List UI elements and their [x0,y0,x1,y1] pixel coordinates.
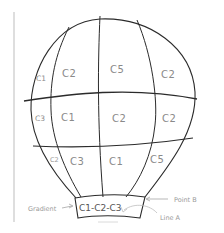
cell-label: C5 [150,154,164,165]
cell-label: C1 [61,112,75,123]
cell-label: C2 [161,69,175,80]
cell-label: C2 [62,68,76,79]
cell-label: C2 [50,156,59,164]
line-a-annotation: Line A [160,214,181,222]
cell-label: C1 [109,156,123,167]
center-meridian [98,16,103,197]
line-a-arrowhead-icon [121,207,127,212]
cell-label: C1 [36,74,46,83]
point-b-annotation: Point B [174,196,197,204]
cell-label: C3 [35,114,45,123]
basket-label: C1-C2-C3 [79,203,122,213]
diagram-svg: C1 C2 C5 C2 C3 C1 C2 C2 C2 C3 C1 C5 C1-C… [0,0,224,233]
gradient-annotation: Gradient [28,205,57,213]
upper-seam-line [24,92,197,101]
envelope-outline [31,19,195,198]
cell-label: C2 [162,113,176,124]
right-meridian [126,20,156,197]
balloon-diagram: C1 C2 C5 C2 C3 C1 C2 C2 C2 C3 C1 C5 C1-C… [0,0,224,233]
cell-label: C3 [70,156,84,167]
cell-label: C2 [112,113,126,124]
line-a-arrow [124,205,157,213]
cell-label: C5 [110,64,124,75]
